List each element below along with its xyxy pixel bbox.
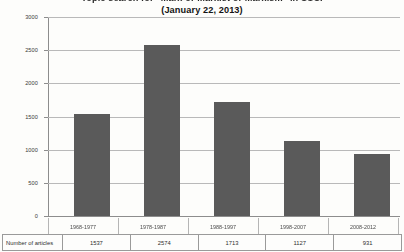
y-tick-3000: 3000 (44, 17, 48, 18)
y-tick-label-2000: 2000 (25, 80, 38, 86)
table-row-header: Number of articles (3, 235, 63, 250)
bar-1968-1977 (74, 114, 110, 216)
plot-area: 3000 2500 2000 1500 1000 500 0 (48, 17, 400, 217)
y-tick-label-500: 500 (28, 180, 38, 186)
table-cell-1988-1997: 1713 (199, 235, 267, 250)
bar-1998-2007 (284, 141, 320, 216)
x-tick-label-2008-2012: 2008-2012 (328, 224, 398, 230)
y-tick-label-1000: 1000 (25, 147, 38, 153)
x-tick-label-1978-1987: 1978-1987 (118, 224, 188, 230)
y-tick-label-2500: 2500 (25, 47, 38, 53)
gridline-2000 (48, 83, 400, 84)
y-tick-1000: 1000 (44, 150, 48, 151)
chart-title-block: Topic search for "Marx or Marxist or Mar… (0, 0, 404, 16)
y-tick-2500: 2500 (44, 50, 48, 51)
table-cell-1978-1987: 2574 (131, 235, 199, 250)
bar-2008-2012 (354, 154, 390, 216)
gridline-3000 (48, 17, 400, 18)
y-tick-label-3000: 3000 (25, 14, 38, 20)
table-cell-2008-2012: 931 (334, 235, 401, 250)
y-tick-label-1500: 1500 (25, 114, 38, 120)
bar-1988-1997 (214, 102, 250, 216)
data-table: Number of articles 1537 2574 1713 1127 9… (2, 234, 402, 251)
x-axis-line (48, 216, 400, 217)
x-tick-label-1968-1977: 1968-1977 (48, 224, 118, 230)
chart-subtitle: (January 22, 2013) (0, 5, 404, 17)
table-cell-1998-2007: 1127 (266, 235, 334, 250)
y-tick-2000: 2000 (44, 83, 48, 84)
y-tick-1500: 1500 (44, 117, 48, 118)
chart-figure: Topic search for "Marx or Marxist or Mar… (0, 0, 404, 252)
chart-title: Topic search for "Marx or Marxist or Mar… (0, 0, 404, 5)
x-tick-label-1988-1997: 1988-1997 (188, 224, 258, 230)
bar-1978-1987 (144, 45, 180, 216)
y-tick-500: 500 (44, 183, 48, 184)
gridline-2500 (48, 50, 400, 51)
table-cell-1968-1977: 1537 (63, 235, 131, 250)
x-tick-label-1998-2007: 1998-2007 (258, 224, 328, 230)
category-separator (398, 218, 399, 234)
y-tick-label-0: 0 (35, 213, 38, 219)
